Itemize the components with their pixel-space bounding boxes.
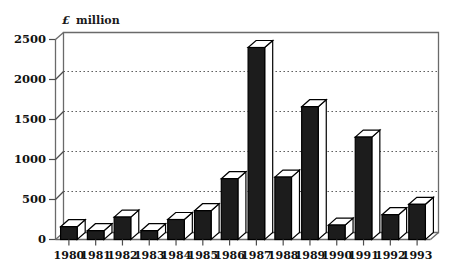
bar-side-face <box>318 100 326 240</box>
bar-front-face <box>328 225 345 239</box>
bar-1992 <box>382 208 407 240</box>
bar-1990 <box>328 218 353 239</box>
bar-front-face <box>87 231 104 240</box>
ytick-label-1500: 1500 <box>14 112 46 126</box>
chart-canvas: 0 500 1000 1500 2000 2500 £ million 1980… <box>0 0 455 270</box>
bar-front-face <box>409 204 426 239</box>
bar-side-face <box>238 172 246 240</box>
bar-front-face <box>248 48 265 240</box>
bar-front-face <box>302 107 319 240</box>
currency-symbol-icon: £ <box>62 13 70 27</box>
bar-front-face <box>168 220 185 240</box>
bar-1988 <box>275 170 300 239</box>
ytick-label-1000: 1000 <box>14 152 46 166</box>
bar-side-face <box>291 170 299 239</box>
bar-side-face <box>372 130 380 239</box>
ytick-label-2500: 2500 <box>14 32 46 46</box>
bar-1989 <box>302 100 327 240</box>
bar-1991 <box>355 130 380 239</box>
bar-chart: 0 500 1000 1500 2000 2500 £ million 1980… <box>0 0 455 270</box>
bar-side-face <box>265 41 273 240</box>
ytick-label-0: 0 <box>38 232 46 246</box>
bar-1986 <box>221 172 246 240</box>
bar-1984 <box>168 213 193 240</box>
bar-1985 <box>195 204 220 240</box>
bar-front-face <box>195 211 212 240</box>
bar-front-face <box>355 137 372 239</box>
bar-front-face <box>114 217 131 239</box>
bar-1987 <box>248 41 273 240</box>
bar-1982 <box>114 210 139 239</box>
x-axis-tick-labels: 1980198119821983198419851986198719881989… <box>54 249 433 262</box>
ytick-label-2000: 2000 <box>14 72 46 86</box>
bar-front-face <box>61 227 78 240</box>
bar-1993 <box>409 197 434 239</box>
bar-front-face <box>275 177 292 239</box>
bar-front-face <box>141 231 158 240</box>
ytick-label-500: 500 <box>22 192 46 206</box>
y-axis-title-text: million <box>76 14 120 27</box>
bar-front-face <box>382 215 399 240</box>
bar-front-face <box>221 179 238 240</box>
xtick-label-1993: 1993 <box>402 249 433 262</box>
